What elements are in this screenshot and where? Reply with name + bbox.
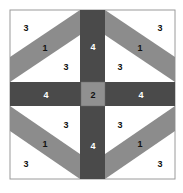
label-center: 2: [90, 90, 95, 100]
label-br-band: 1: [137, 139, 142, 149]
label-br-corner: 3: [157, 159, 162, 169]
label-tl-inner: 3: [63, 62, 68, 72]
label-right-bar: 4: [138, 90, 143, 100]
quilt-block-diagram: 3 1 3 3 1 3 3 1 3 3 1 3 4 4 4 4 2: [0, 0, 183, 193]
label-tr-band: 1: [137, 43, 142, 53]
label-bl-inner: 3: [63, 120, 68, 130]
label-tr-inner: 3: [117, 62, 122, 72]
label-top-bar: 4: [90, 42, 95, 52]
label-bl-corner: 3: [23, 159, 28, 169]
label-bl-band: 1: [42, 139, 47, 149]
label-tl-band: 1: [42, 43, 47, 53]
label-tl-corner: 3: [23, 23, 28, 33]
label-br-inner: 3: [117, 120, 122, 130]
label-tr-corner: 3: [157, 23, 162, 33]
label-bottom-bar: 4: [90, 141, 95, 151]
label-left-bar: 4: [43, 90, 48, 100]
